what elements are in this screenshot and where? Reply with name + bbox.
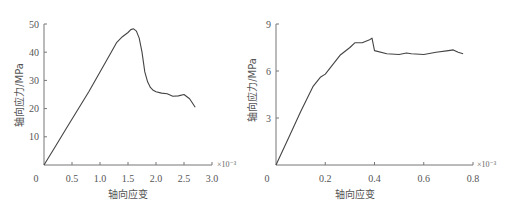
x-tick-label: 0.4 [368, 173, 381, 184]
right-y-ticks: 369 [266, 19, 279, 124]
x-tick-label: 1.0 [94, 173, 107, 184]
y-tick-label: 10 [29, 131, 39, 142]
left-origin-label: 0 [34, 173, 39, 184]
y-tick-label: 9 [266, 19, 271, 30]
y-tick-label: 6 [266, 66, 271, 77]
x-tick-label: 2.5 [178, 173, 191, 184]
left-y-axis-title: 轴向应力/MPa [13, 63, 25, 127]
x-tick-label: 3.0 [206, 173, 219, 184]
x-tick-label: 2.0 [150, 173, 163, 184]
chart-canvas: 1020304050 0.51.01.52.02.53.0 0 ×10⁻³ 轴向… [0, 0, 512, 210]
x-tick-label: 0.2 [319, 173, 332, 184]
right-x-axis-title: 轴向应变 [335, 188, 375, 200]
left-stress-strain-chart: 1020304050 0.51.01.52.02.53.0 0 ×10⁻³ 轴向… [13, 19, 237, 201]
y-tick-label: 20 [29, 103, 39, 114]
right-stress-strain-curve [276, 38, 463, 165]
x-tick-label: 0.6 [418, 173, 431, 184]
right-stress-strain-chart: 369 0.20.40.60.8 0 ×10⁻³ 轴向应变 轴向应力/MPa [246, 19, 497, 201]
right-y-axis-title: 轴向应力/MPa [246, 58, 258, 122]
right-x-multiplier: ×10⁻³ [477, 160, 497, 169]
x-tick-label: 1.5 [122, 173, 135, 184]
x-tick-label: 0.8 [467, 173, 480, 184]
y-tick-label: 40 [29, 47, 39, 58]
right-origin-label: 0 [265, 173, 270, 184]
y-tick-label: 50 [29, 19, 39, 30]
left-x-multiplier: ×10⁻³ [217, 160, 237, 169]
x-tick-label: 0.5 [66, 173, 79, 184]
y-tick-label: 30 [29, 75, 39, 86]
left-x-axis-title: 轴向应变 [108, 188, 148, 200]
left-stress-strain-curve [44, 29, 195, 165]
y-tick-label: 3 [266, 113, 271, 124]
